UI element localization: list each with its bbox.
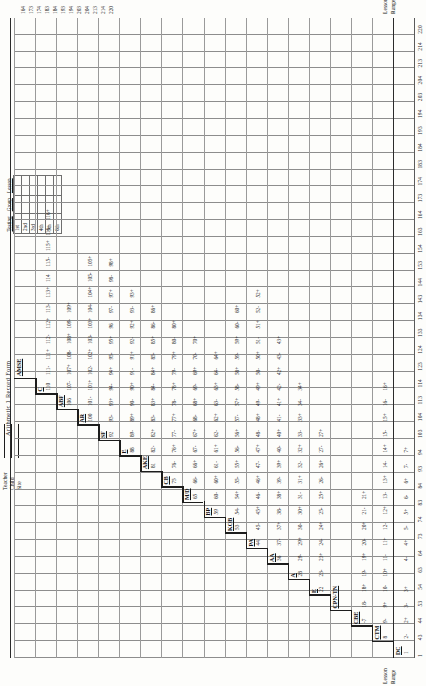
right-lesson-range-label: 204: [84, 6, 90, 14]
skill-level-cell: 5+: [403, 509, 409, 515]
skill-level-cell: 90-: [129, 399, 135, 406]
lesson-range-tick-label: 154: [417, 244, 423, 253]
staircase-tread: [56, 393, 58, 410]
skill-level-cell: 69+: [192, 367, 198, 375]
skill-level-cell: 80+: [171, 320, 177, 328]
skill-level-cell: 103-: [87, 334, 93, 344]
skill-level-cell: 12-: [382, 523, 388, 530]
row-axis-label-line1: Lesson: [382, 668, 388, 684]
staircase-riser: [182, 502, 203, 504]
lesson-range-gridline: [14, 287, 414, 288]
lesson-range-gridline: [14, 337, 414, 338]
skill-level-cell: 51-: [255, 337, 261, 344]
lesson-range-gridline: [14, 590, 414, 591]
skill-level-cell: 69-: [192, 384, 198, 391]
lesson-range-gridline: [14, 505, 414, 506]
lesson-range-tick-label: 84: [417, 483, 423, 489]
lesson-range-tick-label: 64: [417, 550, 423, 556]
staircase-tread: [372, 625, 374, 642]
lesson-range-tick-label: 53: [417, 601, 423, 607]
band-separator: [98, 18, 99, 658]
skill-level-cell: 55-: [234, 477, 240, 484]
skill-level-cell: 34-: [297, 399, 303, 406]
skill-level-cell: 92-: [129, 337, 135, 344]
skill-level-cell: 4-: [403, 557, 409, 561]
lesson-range-tick-label: 44: [417, 618, 423, 624]
skill-level-cell: 40-: [276, 446, 282, 453]
record-form-page: Arithmetic 1 Record Form Teacher Child S…: [0, 0, 426, 686]
staircase-riser: [35, 393, 56, 395]
skill-column-header-dc: DC: [395, 646, 401, 655]
skill-level-cell: 19+: [361, 553, 367, 561]
staircase-riser: [309, 594, 330, 596]
lesson-range-tick-label: 1: [417, 654, 423, 657]
skill-level-cell: 61+: [213, 444, 219, 452]
skill-level-cell: 95+: [108, 336, 114, 344]
right-lesson-range-label: 203: [76, 6, 82, 14]
skill-level-cell: 51+: [255, 320, 261, 328]
row-axis-label-line2: Range: [390, 670, 396, 684]
skill-column-header-cb: CB: [163, 476, 169, 484]
band-separator: [225, 18, 226, 658]
skill-level-cell: 46-: [255, 492, 261, 499]
skill-level-cell: 58-: [234, 384, 240, 391]
lesson-range-tick-label: 203: [417, 93, 423, 102]
skill-level-cell: 42+: [276, 367, 282, 375]
lesson-range-tick-label: 184: [417, 143, 423, 152]
rule-1: [4, 424, 5, 458]
skill-level-cell: 65: [192, 494, 198, 499]
skill-level-cell: 59+: [234, 336, 240, 344]
skill-column-header-kob: KOB: [227, 518, 233, 531]
skill-level-cell: 10-: [382, 585, 388, 592]
right-lesson-range-label: 193: [60, 6, 66, 14]
skill-level-cell: 82-: [150, 446, 156, 453]
skill-level-cell: 27+: [318, 429, 324, 437]
skill-level-cell: 100: [87, 414, 93, 422]
skill-level-cell: 78-: [171, 399, 177, 406]
skill-level-cell: 28: [297, 571, 303, 576]
skill-level-cell: 39-: [276, 477, 282, 484]
skill-column-header-aa: AA: [269, 553, 275, 562]
skill-level-cell: 85-: [150, 353, 156, 360]
band-separator: [119, 18, 120, 658]
lesson-range-tick-label: 43: [417, 634, 423, 640]
staircase-tread: [182, 486, 184, 503]
skill-level-cell: 22: [318, 587, 324, 592]
skill-level-cell: 66-: [192, 477, 198, 484]
lesson-range-gridline: [14, 169, 414, 170]
skill-column-header-e: E: [311, 589, 317, 593]
skill-level-cell: 18+: [361, 584, 367, 592]
skill-level-cell: 3-: [403, 603, 409, 607]
skill-level-cell: 45-: [255, 523, 261, 530]
staircase-tread: [351, 610, 353, 627]
skill-level-cell: 9+: [382, 602, 388, 608]
skill-level-cell: 36: [276, 556, 282, 561]
skill-level-cell: 33-: [297, 430, 303, 437]
lesson-range-gridline: [14, 455, 414, 456]
staircase-riser: [246, 548, 267, 550]
lesson-range-gridline: [14, 438, 414, 439]
sheet-top-rule: [10, 18, 11, 658]
band-separator: [56, 18, 57, 658]
band-separator: [35, 18, 36, 658]
lesson-range-gridline: [14, 270, 414, 271]
skill-column-header-cpn-tn: CPN-TN: [332, 586, 338, 609]
lesson-range-gridline: [14, 185, 414, 186]
lesson-range-tick-label: 173: [417, 194, 423, 203]
skill-level-cell: 60+: [213, 475, 219, 483]
lesson-range-tick-label: 123: [417, 362, 423, 371]
skill-level-cell: 90+: [129, 382, 135, 390]
skill-level-cell: 59-: [234, 353, 240, 360]
skill-level-cell: 55+: [234, 460, 240, 468]
skill-level-cell: 43-: [276, 353, 282, 360]
skill-level-cell: 111+: [45, 349, 51, 360]
skill-level-cell: 92: [108, 432, 114, 437]
lesson-range-tick-label: 220: [417, 25, 423, 34]
lesson-range-tick-label: 124: [417, 345, 423, 354]
skill-level-cell: 34+: [297, 382, 303, 390]
skill-level-cell: 77-: [171, 430, 177, 437]
skill-level-cell: 49+: [255, 382, 261, 390]
skill-level-cell: 76+: [171, 444, 177, 452]
skill-level-cell: 63+: [213, 382, 219, 390]
skill-column-header-pa: PA: [248, 539, 254, 547]
